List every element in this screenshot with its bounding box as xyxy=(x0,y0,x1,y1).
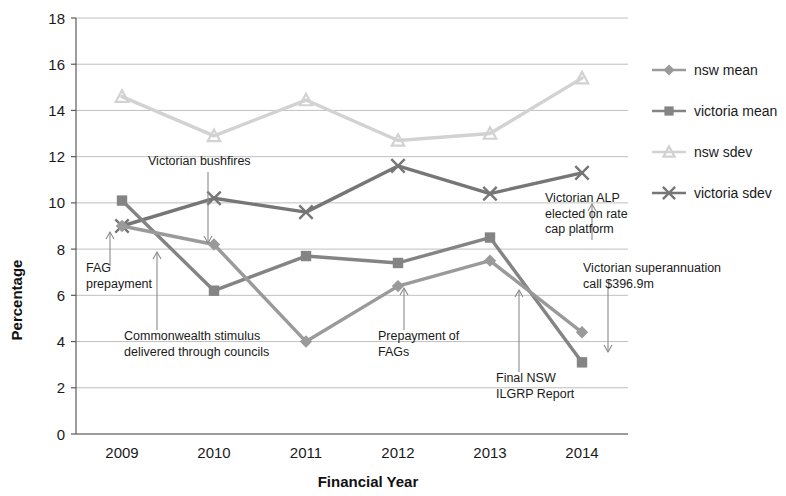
annotations-group: FAGprepaymentVictorian bushfiresCommonwe… xyxy=(86,154,721,401)
annotation-label: Victorian bushfires xyxy=(148,154,251,168)
annotation-commonwealth-stimulus: Commonwealth stimulusdelivered through c… xyxy=(124,252,269,359)
chart-figure: 024681012141618 200920102011201220132014… xyxy=(0,0,786,496)
y-tick-label-10: 10 xyxy=(48,194,65,211)
annotation-label: Prepayment ofFAGs xyxy=(378,329,460,359)
y-tick-label-18: 18 xyxy=(48,10,65,27)
y-tick-labels-group: 024681012141618 xyxy=(48,10,65,443)
x-tick-label-2011: 2011 xyxy=(290,444,322,461)
x-tick-label-2010: 2010 xyxy=(197,444,230,461)
legend-label: victoria mean xyxy=(694,103,777,119)
legend-marker-diamond-icon xyxy=(663,64,674,75)
annotation-label: Final NSWILGRP Report xyxy=(496,371,575,401)
y-tick-label-12: 12 xyxy=(48,148,65,165)
series-line-nsw-mean xyxy=(122,226,582,342)
annotation-fag-prepayment: FAGprepayment xyxy=(86,232,153,291)
legend-label: nsw sdev xyxy=(694,144,752,160)
series-line-victoria-sdev xyxy=(122,166,582,226)
legend-group: nsw meanvictoria meannsw sdevvictoria sd… xyxy=(652,62,777,201)
legend-item-nsw-sdev[interactable]: nsw sdev xyxy=(652,144,752,160)
line-chart-canvas: 024681012141618 200920102011201220132014… xyxy=(0,0,786,496)
y-tick-label-6: 6 xyxy=(57,287,65,304)
data-point-victoria-mean-2014 xyxy=(577,357,587,367)
annotation-label: FAGprepayment xyxy=(86,261,153,291)
series-nsw-sdev xyxy=(116,72,588,146)
annotation-prepayment-of-fags: Prepayment ofFAGs xyxy=(378,288,460,359)
x-tick-label-2014: 2014 xyxy=(565,444,598,461)
x-tick-label-2012: 2012 xyxy=(381,444,414,461)
y-tick-label-2: 2 xyxy=(57,379,65,396)
x-axis-title: Financial Year xyxy=(318,473,419,490)
annotation-final-nsw-ilgrp-report: Final NSWILGRP Report xyxy=(496,290,575,401)
y-tick-label-0: 0 xyxy=(57,426,65,443)
legend-marker-square-icon xyxy=(664,106,673,115)
series-line-nsw-sdev xyxy=(122,78,582,140)
legend-item-victoria-mean[interactable]: victoria mean xyxy=(652,103,777,119)
legend-label: victoria sdev xyxy=(694,185,772,201)
legend-label: nsw mean xyxy=(694,62,758,78)
series-group xyxy=(115,72,588,368)
y-tick-label-16: 16 xyxy=(48,56,65,73)
legend-item-victoria-sdev[interactable]: victoria sdev xyxy=(652,185,772,201)
data-point-victoria-mean-2012 xyxy=(393,258,403,268)
annotation-victorian-alp-rate-cap: Victorian ALPelected on ratecap platform xyxy=(545,191,628,240)
y-tick-label-8: 8 xyxy=(57,241,65,258)
data-point-victoria-mean-2013 xyxy=(485,232,495,242)
y-axis-title: Percentage xyxy=(8,260,25,341)
data-point-victoria-mean-2011 xyxy=(301,251,311,261)
annotation-label: Commonwealth stimulusdelivered through c… xyxy=(124,329,269,359)
data-point-victoria-mean-2009 xyxy=(117,195,127,205)
y-tick-label-14: 14 xyxy=(48,102,65,119)
data-point-victoria-mean-2010 xyxy=(209,286,219,296)
x-tick-label-2013: 2013 xyxy=(473,444,506,461)
annotation-victorian-superannuation: Victorian superannuationcall $396.9m xyxy=(583,261,721,352)
annotation-label: Victorian ALPelected on ratecap platform xyxy=(545,191,628,236)
x-tick-label-2009: 2009 xyxy=(105,444,138,461)
series-victoria-sdev xyxy=(115,159,588,232)
x-tick-labels-group: 200920102011201220132014 xyxy=(105,444,598,461)
annotation-label: Victorian superannuationcall $396.9m xyxy=(583,261,721,291)
annotation-victorian-bushfires: Victorian bushfires xyxy=(148,154,251,243)
legend-item-nsw-mean[interactable]: nsw mean xyxy=(652,62,758,78)
y-tick-label-4: 4 xyxy=(57,333,65,350)
